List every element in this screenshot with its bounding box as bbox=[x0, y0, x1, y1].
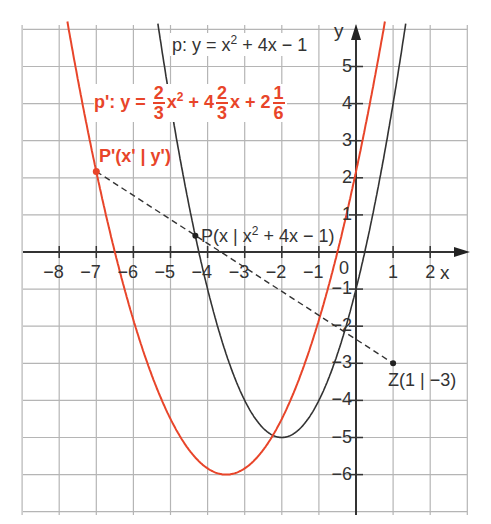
y-tick-label: −3 bbox=[326, 352, 352, 373]
origin-label: 0 bbox=[339, 258, 349, 279]
y-tick-label: −6 bbox=[326, 464, 352, 485]
y-tick-label: 2 bbox=[326, 167, 352, 188]
y-tick-label: 3 bbox=[326, 130, 352, 151]
y-tick-label: −4 bbox=[326, 389, 352, 410]
x-tick-label: −7 bbox=[80, 262, 101, 283]
numerator: 1 bbox=[273, 84, 285, 104]
point-p-label-text: P(x | x bbox=[201, 226, 252, 246]
x-tick-label: −2 bbox=[266, 262, 287, 283]
x-tick-label: −3 bbox=[229, 262, 250, 283]
exponent: 2 bbox=[177, 90, 184, 104]
y-axis-label: y bbox=[334, 20, 344, 42]
x-tick-label: −4 bbox=[192, 262, 213, 283]
x-tick-label: −6 bbox=[117, 262, 138, 283]
point-z-label: Z(1 | −3) bbox=[388, 370, 456, 391]
equation-pp-prefix: p': y = bbox=[94, 92, 151, 112]
point-p bbox=[192, 233, 198, 239]
x-plus-two: x + 2 bbox=[230, 92, 271, 112]
fraction-two-thirds-2: 23 bbox=[216, 84, 228, 122]
point-p-prime bbox=[93, 168, 100, 175]
x-tick-label: −8 bbox=[43, 262, 64, 283]
equation-p-text: p: y = x bbox=[172, 35, 231, 55]
equation-p-text-2: + 4x − 1 bbox=[237, 35, 307, 55]
y-tick-label: −5 bbox=[326, 427, 352, 448]
y-tick-label: −2 bbox=[326, 315, 352, 336]
point-z bbox=[390, 360, 396, 366]
point-p-label-text-2: + 4x − 1) bbox=[258, 226, 334, 246]
denominator: 3 bbox=[153, 104, 165, 122]
x-tick-label: −5 bbox=[155, 262, 176, 283]
denominator: 3 bbox=[216, 104, 228, 122]
x-term: x bbox=[167, 92, 177, 112]
y-tick-label: 1 bbox=[326, 204, 352, 225]
numerator: 2 bbox=[153, 84, 165, 104]
x-tick-label: 2 bbox=[425, 262, 435, 283]
x-axis-label: x bbox=[440, 262, 450, 284]
denominator: 6 bbox=[273, 104, 285, 122]
y-axis-arrow-icon bbox=[351, 24, 361, 40]
equation-p-prime: p': y = 23x2 + 423x + 216 bbox=[94, 84, 287, 122]
x-tick-label: 1 bbox=[388, 262, 398, 283]
x-tick-label: −1 bbox=[303, 262, 324, 283]
numerator: 2 bbox=[216, 84, 228, 104]
equation-p: p: y = x2 + 4x − 1 bbox=[170, 33, 309, 56]
point-p-prime-label: P'(x' | y') bbox=[99, 146, 171, 167]
plus-four: + 4 bbox=[184, 92, 215, 112]
y-tick-label: −1 bbox=[326, 278, 352, 299]
point-p-label: P(x | x2 + 4x − 1) bbox=[201, 224, 334, 247]
y-tick-label: 5 bbox=[326, 56, 352, 77]
fraction-one-sixth: 16 bbox=[273, 84, 285, 122]
y-tick-label: 4 bbox=[326, 93, 352, 114]
fraction-two-thirds: 23 bbox=[153, 84, 165, 122]
